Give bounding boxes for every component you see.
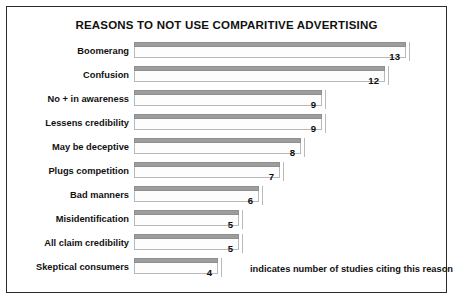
bar-row: Confusion12 <box>7 68 448 92</box>
bar-end-face <box>280 162 284 181</box>
bar-row: Bad manners6 <box>7 188 448 212</box>
bar-top-face <box>134 186 259 191</box>
bar-top-face <box>134 162 280 167</box>
bar-category-label: All claim credibility <box>7 236 129 250</box>
bar-top-face <box>134 258 218 263</box>
bar-category-label: Skeptical consumers <box>7 260 129 274</box>
bar-top-face <box>134 90 322 95</box>
bar-category-label: Boomerang <box>7 44 129 58</box>
bar-end-face <box>301 138 305 157</box>
bar-row: All claim credibility5 <box>7 236 448 260</box>
bar-end-face <box>322 114 326 133</box>
bar-category-label: Misidentification <box>7 212 129 226</box>
bar-category-label: Lessens credibility <box>7 116 129 130</box>
bar-top-face <box>134 210 239 215</box>
bar-value-label: 4 <box>184 266 212 279</box>
bar-row: No + in awareness9 <box>7 92 448 116</box>
bar-body <box>134 46 406 58</box>
chart-footnote: indicates number of studies citing this … <box>250 264 453 274</box>
bar-category-label: Plugs competition <box>7 164 129 178</box>
bar-row: Plugs competition7 <box>7 164 448 188</box>
bar-row: May be deceptive8 <box>7 140 448 164</box>
bar-top-face <box>134 234 239 239</box>
bar-value-label: 9 <box>288 122 316 135</box>
bar-value-label: 6 <box>225 194 253 207</box>
bar-row: Misidentification5 <box>7 212 448 236</box>
bar-body <box>134 70 385 82</box>
bar-value-label: 12 <box>351 74 379 87</box>
bar-top-face <box>134 42 406 47</box>
bar-top-face <box>134 66 385 71</box>
bar-value-label: 7 <box>246 170 274 183</box>
chart-title: REASONS TO NOT USE COMPARITIVE ADVERTISI… <box>7 19 446 31</box>
bar-value-label: 13 <box>372 50 400 63</box>
chart-frame: REASONS TO NOT USE COMPARITIVE ADVERTISI… <box>6 6 447 293</box>
bar-value-label: 8 <box>267 146 295 159</box>
bar-end-face <box>322 90 326 109</box>
bar-top-face <box>134 114 322 119</box>
bar-value-label: 9 <box>288 98 316 111</box>
bar-end-face <box>239 234 243 253</box>
bar <box>134 66 385 86</box>
bar-top-face <box>134 138 301 143</box>
bar-chart-plot-area: Boomerang13Confusion12No + in awareness9… <box>7 44 448 284</box>
bar-category-label: Bad manners <box>7 188 129 202</box>
bar-end-face <box>239 210 243 229</box>
bar-category-label: Confusion <box>7 68 129 82</box>
bar-end-face <box>406 42 410 61</box>
bar-row: Boomerang13 <box>7 44 448 68</box>
bar-end-face <box>218 258 222 277</box>
bar-end-face <box>385 66 389 85</box>
bar-value-label: 5 <box>205 242 233 255</box>
bar-row: Lessens credibility9 <box>7 116 448 140</box>
bar-category-label: May be deceptive <box>7 140 129 154</box>
bar-value-label: 5 <box>205 218 233 231</box>
bar-end-face <box>259 186 263 205</box>
bar-category-label: No + in awareness <box>7 92 129 106</box>
bar <box>134 42 406 62</box>
